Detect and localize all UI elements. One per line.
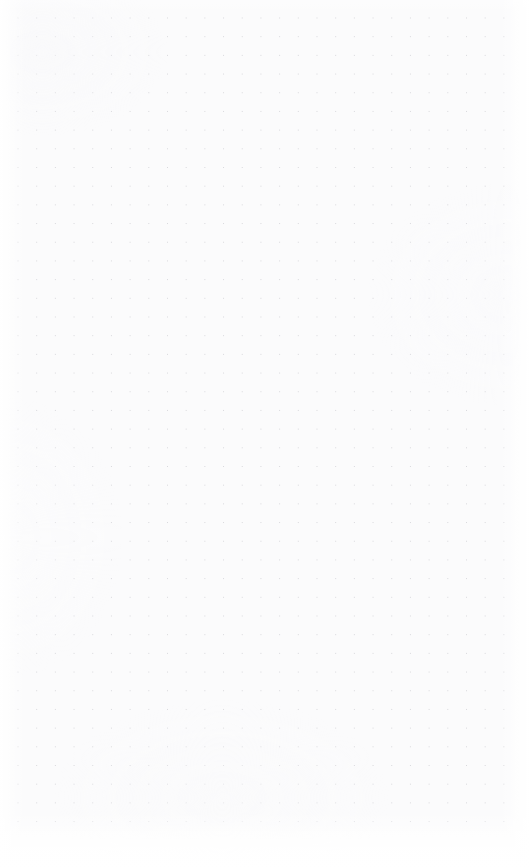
canvas-app-root bbox=[0, 0, 529, 867]
dot-grid-canvas[interactable] bbox=[0, 0, 529, 867]
canvas-viewport[interactable] bbox=[0, 0, 529, 867]
